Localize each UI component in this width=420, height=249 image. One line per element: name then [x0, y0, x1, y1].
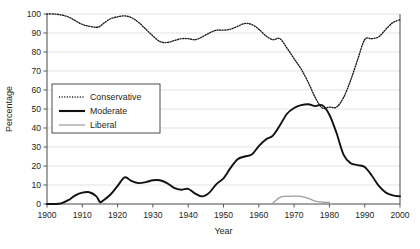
line-chart: 0102030405060708090100 19001910192019301… [0, 0, 420, 249]
y-tick-label: 100 [27, 9, 42, 19]
x-tick-label: 1990 [355, 210, 374, 220]
y-tick-label: 50 [31, 104, 41, 114]
y-axis-title: Percentage [4, 86, 14, 132]
chart-legend: ConservativeModerateLiberal [52, 84, 160, 133]
x-tick-label: 1910 [73, 210, 92, 220]
x-tick-label: 1960 [249, 210, 268, 220]
x-tick-label: 1900 [37, 210, 56, 220]
y-tick-label: 90 [31, 28, 41, 38]
y-tick-label: 70 [31, 66, 41, 76]
legend-label-conservative: Conservative [90, 92, 141, 102]
series-line-liberal [273, 196, 329, 203]
y-tick-label: 20 [31, 161, 41, 171]
y-tick-label: 0 [36, 199, 41, 209]
x-tick-label: 1980 [320, 210, 339, 220]
legend-label-liberal: Liberal [90, 120, 116, 130]
y-tick-label: 60 [31, 85, 41, 95]
x-tick-label: 1950 [214, 210, 233, 220]
legend-label-moderate: Moderate [90, 106, 127, 116]
x-tick-label: 1920 [108, 210, 127, 220]
y-tick-label: 30 [31, 142, 41, 152]
y-tick-label: 40 [31, 123, 41, 133]
y-tick-label: 10 [31, 180, 41, 190]
x-axis-title: Year [214, 226, 232, 236]
x-tick-label: 1970 [285, 210, 304, 220]
x-tick-label: 2000 [390, 210, 409, 220]
chart-container: 0102030405060708090100 19001910192019301… [0, 0, 420, 249]
x-tick-label: 1930 [143, 210, 162, 220]
x-tick-label: 1940 [179, 210, 198, 220]
y-tick-label: 80 [31, 47, 41, 57]
x-axis: 1900191019201930194019501960197019801990… [37, 204, 409, 220]
